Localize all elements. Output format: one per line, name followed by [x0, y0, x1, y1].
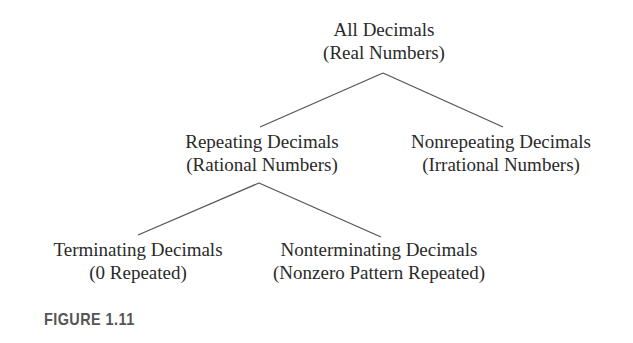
node-subtitle: (Irrational Numbers)	[411, 153, 591, 176]
node-subtitle: (Nonzero Pattern Repeated)	[273, 261, 485, 284]
figure-canvas: All Decimals (Real Numbers) Repeating De…	[0, 0, 633, 343]
node-repeating-decimals: Repeating Decimals (Rational Numbers)	[185, 130, 339, 176]
edge-repeating-terminating	[138, 183, 259, 235]
node-subtitle: (Real Numbers)	[323, 41, 445, 64]
figure-caption: FIGURE 1.11	[44, 310, 135, 330]
node-subtitle: (0 Repeated)	[53, 261, 222, 284]
node-all-decimals: All Decimals (Real Numbers)	[323, 18, 445, 64]
node-title: Nonrepeating Decimals	[411, 130, 591, 153]
node-title: Terminating Decimals	[53, 238, 222, 261]
node-subtitle: (Rational Numbers)	[185, 153, 339, 176]
node-title: Repeating Decimals	[185, 130, 339, 153]
edge-root-repeating	[260, 73, 383, 127]
edge-repeating-nonterminating	[259, 183, 381, 237]
edge-root-nonrepeating	[383, 73, 503, 127]
node-title: All Decimals	[323, 18, 445, 41]
node-terminating-decimals: Terminating Decimals (0 Repeated)	[53, 238, 222, 284]
node-nonterminating-decimals: Nonterminating Decimals (Nonzero Pattern…	[273, 238, 485, 284]
node-nonrepeating-decimals: Nonrepeating Decimals (Irrational Number…	[411, 130, 591, 176]
node-title: Nonterminating Decimals	[273, 238, 485, 261]
